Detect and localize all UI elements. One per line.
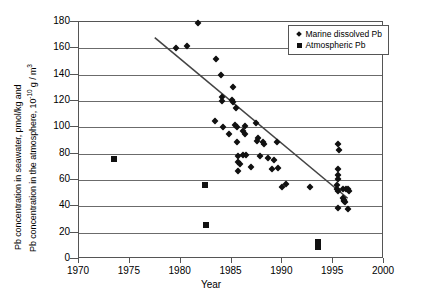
- x-tick-mark: [231, 258, 232, 263]
- x-tick-label: 1995: [312, 265, 352, 276]
- y-tick-label: 80: [36, 148, 70, 158]
- y-tick-mark: [70, 205, 78, 206]
- y-axis-title-exponent: -10: [26, 90, 33, 99]
- y-tick-mark: [70, 47, 78, 48]
- y-tick-mark: [70, 179, 78, 180]
- legend-label-atmospheric-pb: Atmospheric Pb: [305, 40, 365, 51]
- y-tick-label: 20: [36, 227, 70, 237]
- y-tick-label: 140: [36, 69, 70, 79]
- data-point-atmospheric-pb: [202, 182, 208, 188]
- x-tick-mark: [281, 258, 282, 263]
- x-tick-label: 1990: [261, 265, 301, 276]
- x-axis-title: Year: [0, 279, 422, 290]
- x-tick-label: 1980: [160, 265, 200, 276]
- y-tick-mark: [70, 100, 78, 101]
- y-tick-label: 100: [36, 121, 70, 131]
- square-marker-icon: [293, 43, 305, 48]
- trend-line: [79, 22, 382, 257]
- y-axis-title-line-1: Pb concentration in seawater, pmol/kg an…: [13, 84, 23, 250]
- y-tick-mark: [70, 21, 78, 22]
- data-point-atmospheric-pb: [111, 156, 117, 162]
- legend-item-marine-dissolved-pb: Marine dissolved Pb: [293, 29, 382, 40]
- diamond-marker-icon: [293, 32, 305, 36]
- x-tick-label: 1975: [109, 265, 149, 276]
- x-tick-mark: [129, 258, 130, 263]
- data-point-atmospheric-pb: [203, 222, 209, 228]
- y-tick-label: 120: [36, 95, 70, 105]
- y-tick-mark: [70, 74, 78, 75]
- y-tick-label: 40: [36, 200, 70, 210]
- legend-label-marine-dissolved-pb: Marine dissolved Pb: [305, 29, 382, 40]
- y-tick-label: 0: [36, 253, 70, 263]
- y-axis-title-exponent-2: 3: [26, 64, 33, 68]
- x-tick-mark: [383, 258, 384, 263]
- scatter-chart: Pb concentration in seawater, pmol/kg an…: [0, 0, 422, 304]
- x-tick-label: 1985: [211, 265, 251, 276]
- y-axis-title: Pb concentration in seawater, pmol/kg an…: [0, 0, 40, 262]
- x-tick-mark: [78, 258, 79, 263]
- legend-item-atmospheric-pb: Atmospheric Pb: [293, 40, 382, 51]
- y-axis-title-line-2: Pb concentration in the atmosphere, 10-1…: [26, 64, 38, 252]
- x-tick-label: 2000: [363, 265, 403, 276]
- y-tick-label: 180: [36, 16, 70, 26]
- data-point-atmospheric-pb: [315, 244, 321, 250]
- y-tick-mark: [70, 126, 78, 127]
- x-tick-label: 1970: [58, 265, 98, 276]
- y-tick-mark: [70, 232, 78, 233]
- y-tick-mark: [70, 258, 78, 259]
- legend: Marine dissolved Pb Atmospheric Pb: [288, 25, 389, 55]
- plot-area: Marine dissolved Pb Atmospheric Pb: [78, 21, 383, 258]
- x-tick-mark: [180, 258, 181, 263]
- y-tick-label: 60: [36, 174, 70, 184]
- y-tick-mark: [70, 153, 78, 154]
- y-tick-label: 160: [36, 42, 70, 52]
- x-tick-mark: [332, 258, 333, 263]
